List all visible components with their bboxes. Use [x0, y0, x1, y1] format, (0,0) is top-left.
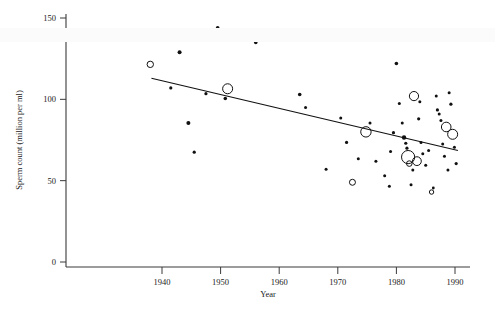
- x-tick-label: 1960: [271, 277, 288, 287]
- y-tick-label: 50: [48, 176, 57, 186]
- x-axis-title: Year: [260, 289, 276, 299]
- y-axis-title: Sperm count (million per ml): [14, 90, 24, 190]
- data-point: [443, 155, 446, 158]
- x-tick-label: 1980: [388, 277, 405, 287]
- data-point: [395, 62, 399, 66]
- data-point-open: [429, 190, 433, 194]
- data-point: [439, 119, 442, 122]
- y-tick-label: 150: [43, 13, 56, 23]
- data-point: [186, 121, 190, 125]
- data-point: [388, 185, 391, 188]
- data-point: [339, 117, 342, 120]
- data-point: [325, 168, 328, 171]
- data-point: [446, 169, 449, 172]
- data-point: [410, 183, 413, 186]
- data-point: [193, 151, 196, 154]
- data-point: [298, 93, 302, 97]
- scatter-plot-figure: 050100150 194019501960197019801990 Year …: [0, 0, 495, 322]
- data-point: [374, 160, 377, 163]
- y-axis-ticks: 050100150: [43, 13, 66, 267]
- data-point: [417, 117, 420, 120]
- data-point: [216, 26, 220, 30]
- data-point: [178, 50, 182, 54]
- x-tick-label: 1970: [329, 277, 346, 287]
- data-point: [369, 121, 372, 124]
- plot-canvas: 050100150 194019501960197019801990 Year …: [0, 0, 495, 322]
- data-point: [169, 86, 172, 89]
- data-point: [424, 164, 427, 167]
- data-point: [449, 103, 452, 106]
- y-tick-label: 0: [52, 257, 56, 267]
- data-point: [398, 102, 401, 105]
- data-point: [453, 146, 456, 149]
- x-tick-label: 1950: [212, 277, 229, 287]
- data-point: [418, 100, 421, 103]
- data-point: [333, 31, 337, 35]
- data-point: [401, 121, 404, 124]
- data-point: [427, 149, 430, 152]
- data-point: [411, 169, 414, 172]
- data-point: [438, 112, 441, 115]
- data-point-open: [223, 84, 233, 94]
- data-point-open: [409, 91, 418, 100]
- data-points: [147, 26, 458, 194]
- data-point: [304, 106, 307, 109]
- y-tick-label: 100: [43, 94, 56, 104]
- x-tick-label: 1990: [447, 277, 464, 287]
- data-point: [223, 97, 227, 101]
- data-point: [357, 157, 360, 160]
- data-point: [345, 141, 348, 144]
- data-point: [435, 95, 438, 98]
- data-point: [421, 152, 424, 155]
- data-point: [204, 92, 207, 95]
- data-point-open: [448, 129, 458, 139]
- data-point-open: [147, 61, 153, 67]
- data-point: [405, 147, 408, 150]
- data-point: [432, 187, 435, 190]
- data-point: [383, 174, 386, 177]
- data-point: [455, 162, 458, 165]
- data-point: [389, 150, 392, 153]
- data-point: [254, 41, 258, 45]
- data-point: [441, 143, 444, 146]
- x-axis-ticks: 194019501960197019801990: [154, 267, 464, 287]
- trend-line: [151, 78, 457, 150]
- x-tick-label: 1940: [154, 277, 171, 287]
- data-point: [404, 142, 407, 145]
- data-point-open: [349, 179, 355, 185]
- data-point: [448, 91, 451, 94]
- data-point: [392, 131, 395, 134]
- data-point: [436, 108, 439, 111]
